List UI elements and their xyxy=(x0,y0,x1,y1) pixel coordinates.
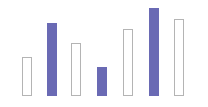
bar-1 xyxy=(22,57,32,96)
bar-5 xyxy=(123,29,133,96)
bar-3 xyxy=(71,43,81,96)
bar-2 xyxy=(47,23,57,96)
bar-chart xyxy=(0,0,208,107)
bar-6 xyxy=(149,8,159,96)
plot-area xyxy=(0,0,208,107)
bar-7 xyxy=(174,19,184,96)
bar-4 xyxy=(97,67,107,96)
